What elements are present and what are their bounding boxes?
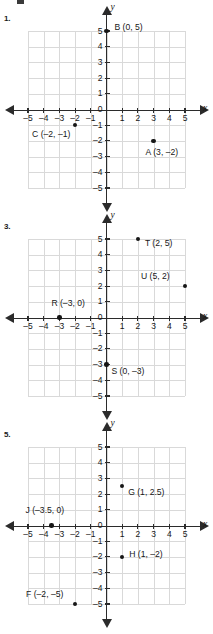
- plotted-point: [104, 29, 108, 33]
- point-label: B (0, 5): [115, 23, 143, 32]
- problem-1: 1.xy–5–4–3–2–112345543210–1–2–3–4–5B (0,…: [0, 14, 213, 209]
- x-axis-tick: [153, 524, 154, 529]
- coordinate-plane: xy–5–4–3–2–112345543210–1–2–3–4–5T (2, 5…: [0, 239, 213, 409]
- y-axis-tick: [105, 478, 110, 479]
- x-axis-tick-label: 4: [161, 114, 177, 123]
- plotted-point: [183, 284, 187, 288]
- point-label: G (1, 2.5): [128, 488, 164, 497]
- y-axis-tick-label: –2: [86, 552, 103, 561]
- x-axis-tick-label: –4: [36, 114, 52, 123]
- y-axis: [106, 223, 108, 411]
- x-axis-tick-label: 3: [146, 114, 162, 123]
- problem-number: 5.: [4, 430, 10, 439]
- y-axis-tick-label: –5: [86, 392, 103, 401]
- y-axis-tick-label: –4: [86, 168, 103, 177]
- x-axis-tick: [184, 524, 185, 529]
- problem-number: 1.: [4, 14, 10, 23]
- y-axis-tick-label: 3: [86, 58, 103, 67]
- y-axis-tick-label: 4: [86, 42, 103, 51]
- plotted-point: [73, 602, 77, 606]
- y-axis-tick-label: 0: [86, 313, 103, 322]
- x-axis-tick: [153, 316, 154, 321]
- y-axis-tick: [105, 301, 110, 302]
- x-axis-tick: [59, 524, 60, 529]
- x-axis-tick: [122, 316, 123, 321]
- y-axis-tick: [105, 588, 110, 589]
- y-axis-tick: [105, 93, 110, 94]
- x-axis-tick-label: 3: [146, 322, 162, 331]
- x-axis-tick-label: –5: [20, 530, 36, 539]
- point-label: C (–2, –1): [32, 130, 70, 139]
- worksheet-page: 1.xy–5–4–3–2–112345543210–1–2–3–4–5B (0,…: [0, 0, 213, 634]
- y-axis-tick-label: –4: [86, 584, 103, 593]
- x-axis-arrow-left: [5, 105, 14, 115]
- x-axis-tick-label: –4: [36, 322, 52, 331]
- y-axis-tick-label: –4: [86, 376, 103, 385]
- y-axis-tick-label: –5: [86, 600, 103, 609]
- y-axis-tick: [105, 556, 110, 557]
- x-axis-tick-label: –4: [36, 530, 52, 539]
- x-axis-tick-label: 2: [130, 114, 146, 123]
- x-axis-tick: [75, 524, 76, 529]
- x-axis-tick-label: 5: [177, 530, 193, 539]
- x-axis-tick: [169, 108, 170, 113]
- y-axis: [106, 15, 108, 203]
- y-axis-tick: [105, 494, 110, 495]
- y-axis-tick-label: 4: [86, 458, 103, 467]
- point-label: R (–3, 0): [51, 299, 84, 308]
- x-axis-tick: [27, 524, 28, 529]
- plotted-point: [49, 523, 53, 527]
- y-axis-tick: [105, 380, 110, 381]
- y-axis-tick: [105, 286, 110, 287]
- x-axis-tick-label: –2: [67, 322, 83, 331]
- y-axis-tick-label: 3: [86, 474, 103, 483]
- y-axis-label: y: [111, 2, 115, 12]
- y-axis-tick: [105, 172, 110, 173]
- y-axis-tick: [105, 46, 110, 47]
- y-axis-tick-label: –3: [86, 568, 103, 577]
- x-axis-tick: [75, 316, 76, 321]
- x-axis-tick-label: 2: [130, 322, 146, 331]
- y-axis-tick: [105, 156, 110, 157]
- y-axis-tick: [105, 541, 110, 542]
- x-axis-tick-label: 4: [161, 322, 177, 331]
- y-axis-tick-label: 5: [86, 443, 103, 452]
- plotted-point: [151, 139, 155, 143]
- x-axis-arrow-left: [5, 521, 14, 531]
- coordinate-plane: xy–5–4–3–2–112345543210–1–2–3–4–5G (1, 2…: [0, 447, 213, 617]
- x-axis-tick: [184, 316, 185, 321]
- x-axis-tick: [27, 316, 28, 321]
- y-axis-tick: [105, 395, 110, 396]
- x-axis-tick: [75, 108, 76, 113]
- x-axis-tick-label: 5: [177, 322, 193, 331]
- y-axis-tick: [105, 572, 110, 573]
- plotted-point: [104, 362, 108, 366]
- y-axis-tick-label: 2: [86, 490, 103, 499]
- x-axis-tick: [137, 108, 138, 113]
- point-label: J (–3.5, 0): [26, 506, 65, 515]
- problem-3: 5.xy–5–4–3–2–112345543210–1–2–3–4–5G (1,…: [0, 430, 213, 625]
- x-axis-tick: [122, 524, 123, 529]
- point-label: H (1, –2): [129, 550, 162, 559]
- x-axis-label: x: [203, 311, 207, 321]
- point-label: T (2, 5): [145, 239, 173, 248]
- y-axis-tick: [105, 238, 110, 239]
- y-axis-tick-label: –2: [86, 136, 103, 145]
- y-axis-tick-label: 5: [86, 27, 103, 36]
- x-axis-label: x: [203, 519, 207, 529]
- x-axis-label: x: [203, 103, 207, 113]
- x-axis-tick-label: –3: [51, 322, 67, 331]
- y-axis-tick-label: 3: [86, 266, 103, 275]
- y-axis-tick-label: –1: [86, 537, 103, 546]
- x-axis-tick-label: –2: [67, 530, 83, 539]
- x-axis-tick-label: 4: [161, 530, 177, 539]
- page-edge-artifact: [17, 0, 24, 4]
- y-axis-tick-label: –1: [86, 329, 103, 338]
- y-axis-tick-label: –5: [86, 184, 103, 193]
- coordinate-plane: xy–5–4–3–2–112345543210–1–2–3–4–5B (0, 5…: [0, 31, 213, 201]
- y-axis-label: y: [111, 210, 115, 220]
- x-axis-tick-label: –5: [20, 322, 36, 331]
- x-axis-arrow-left: [5, 313, 14, 323]
- y-axis-tick-label: 1: [86, 89, 103, 98]
- x-axis-tick: [43, 108, 44, 113]
